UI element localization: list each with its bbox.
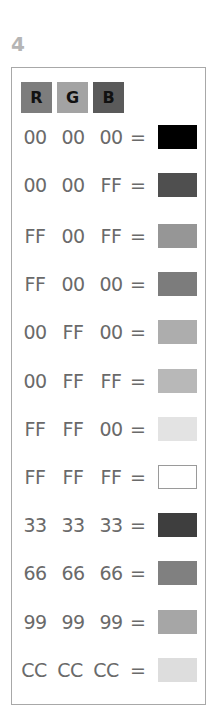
- color-swatch: [158, 658, 197, 682]
- hex-values: 00FFFF: [16, 364, 130, 398]
- hex-values: 0000FF: [16, 168, 130, 202]
- channel-g-header: G: [57, 82, 88, 113]
- color-swatch: [158, 417, 197, 441]
- channel-b-label: B: [102, 88, 114, 107]
- blue-value: FF: [92, 225, 130, 247]
- hex-values: 000000: [16, 120, 130, 154]
- blue-value: FF: [92, 370, 130, 392]
- equals-sign: =: [130, 267, 146, 301]
- equals-sign: =: [130, 605, 146, 639]
- equals-sign: =: [130, 120, 146, 154]
- blue-value: 33: [92, 514, 130, 536]
- color-swatch: [158, 513, 197, 537]
- color-row: 00FFFF=: [12, 364, 205, 398]
- color-row: 666666=: [12, 556, 205, 590]
- equals-sign: =: [130, 364, 146, 398]
- red-value: 66: [16, 562, 54, 584]
- green-value: 00: [54, 225, 92, 247]
- color-row: 333333=: [12, 508, 205, 542]
- equals-sign: =: [130, 315, 146, 349]
- hex-values: FFFF00: [16, 412, 130, 446]
- red-value: 00: [16, 370, 54, 392]
- equals-sign: =: [130, 460, 146, 494]
- color-row: FFFF00=: [12, 412, 205, 446]
- color-swatch: [158, 320, 197, 344]
- red-value: 00: [16, 321, 54, 343]
- blue-value: 00: [92, 418, 130, 440]
- red-value: 33: [16, 514, 54, 536]
- hex-values: CCCCCC: [16, 653, 124, 687]
- hex-values: 666666: [16, 556, 130, 590]
- color-swatch: [158, 465, 197, 489]
- blue-value: 00: [92, 321, 130, 343]
- red-value: CC: [16, 659, 52, 681]
- equals-sign: =: [130, 168, 146, 202]
- color-swatch: [158, 272, 197, 296]
- green-value: 33: [54, 514, 92, 536]
- equals-sign: =: [130, 412, 146, 446]
- red-value: 00: [16, 126, 54, 148]
- equals-sign: =: [130, 219, 146, 253]
- green-value: CC: [52, 659, 88, 681]
- blue-value: 99: [92, 611, 130, 633]
- color-row: FFFFFF=: [12, 460, 205, 494]
- red-value: FF: [16, 225, 54, 247]
- step-number: 4: [11, 34, 25, 54]
- hex-values: FF00FF: [16, 219, 130, 253]
- equals-sign: =: [130, 508, 146, 542]
- hex-values: FF0000: [16, 267, 130, 301]
- blue-value: 00: [92, 273, 130, 295]
- green-value: 99: [54, 611, 92, 633]
- red-value: FF: [16, 273, 54, 295]
- hex-values: 999999: [16, 605, 130, 639]
- hex-values: 333333: [16, 508, 130, 542]
- blue-value: FF: [92, 466, 130, 488]
- blue-value: FF: [92, 174, 130, 196]
- color-row: FF00FF=: [12, 219, 205, 253]
- blue-value: CC: [88, 659, 124, 681]
- channel-r-label: R: [30, 88, 42, 107]
- color-row: 000000=: [12, 120, 205, 154]
- red-value: FF: [16, 418, 54, 440]
- green-value: 00: [54, 126, 92, 148]
- equals-sign: =: [130, 556, 146, 590]
- color-row: 0000FF=: [12, 168, 205, 202]
- color-row: 999999=: [12, 605, 205, 639]
- equals-sign: =: [130, 653, 146, 687]
- color-row: FF0000=: [12, 267, 205, 301]
- channel-r-header: R: [21, 82, 52, 113]
- green-value: FF: [54, 321, 92, 343]
- color-swatch: [158, 125, 197, 149]
- red-value: FF: [16, 466, 54, 488]
- green-value: 66: [54, 562, 92, 584]
- rgb-color-table: R G B 000000=0000FF=FF00FF=FF0000=00FF00…: [11, 67, 206, 705]
- color-swatch: [158, 369, 197, 393]
- color-row: CCCCCC=: [12, 653, 205, 687]
- channel-g-label: G: [66, 88, 79, 107]
- red-value: 99: [16, 611, 54, 633]
- color-swatch: [158, 610, 197, 634]
- green-value: FF: [54, 466, 92, 488]
- blue-value: 00: [92, 126, 130, 148]
- green-value: FF: [54, 370, 92, 392]
- hex-values: 00FF00: [16, 315, 130, 349]
- color-swatch: [158, 224, 197, 248]
- hex-values: FFFFFF: [16, 460, 130, 494]
- blue-value: 66: [92, 562, 130, 584]
- color-swatch: [158, 561, 197, 585]
- color-swatch: [158, 173, 197, 197]
- channel-b-header: B: [93, 82, 124, 113]
- green-value: 00: [54, 273, 92, 295]
- color-row: 00FF00=: [12, 315, 205, 349]
- red-value: 00: [16, 174, 54, 196]
- green-value: FF: [54, 418, 92, 440]
- green-value: 00: [54, 174, 92, 196]
